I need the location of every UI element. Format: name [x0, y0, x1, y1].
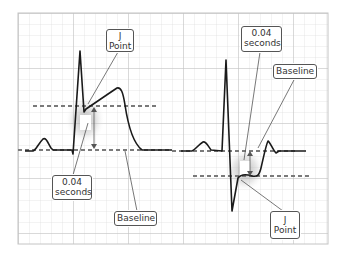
j-point-marker — [80, 115, 91, 130]
j-point-label-right-line1: J — [273, 215, 297, 225]
interval-label-right-line1: 0.04 — [244, 28, 279, 38]
j-point-label-left: J Point — [106, 29, 134, 52]
interval-label-right-line2: seconds — [244, 38, 279, 48]
baseline-label-right-text: Baseline — [276, 66, 314, 77]
j-point-label-right-line2: Point — [273, 225, 297, 235]
interval-label-left-line1: 0.04 — [55, 177, 89, 187]
j-point-label-right: J Point — [270, 211, 300, 239]
j-point-label-left-line1: J — [109, 31, 131, 41]
interval-label-left-line2: seconds — [55, 187, 89, 197]
interval-label-left: 0.04 seconds — [52, 175, 92, 200]
j-point-label-left-line2: Point — [109, 41, 131, 51]
baseline-label-left: Baseline — [114, 211, 157, 226]
baseline-label-right: Baseline — [273, 64, 317, 79]
interval-label-right: 0.04 seconds — [241, 26, 282, 52]
baseline-label-left-text: Baseline — [117, 213, 154, 224]
